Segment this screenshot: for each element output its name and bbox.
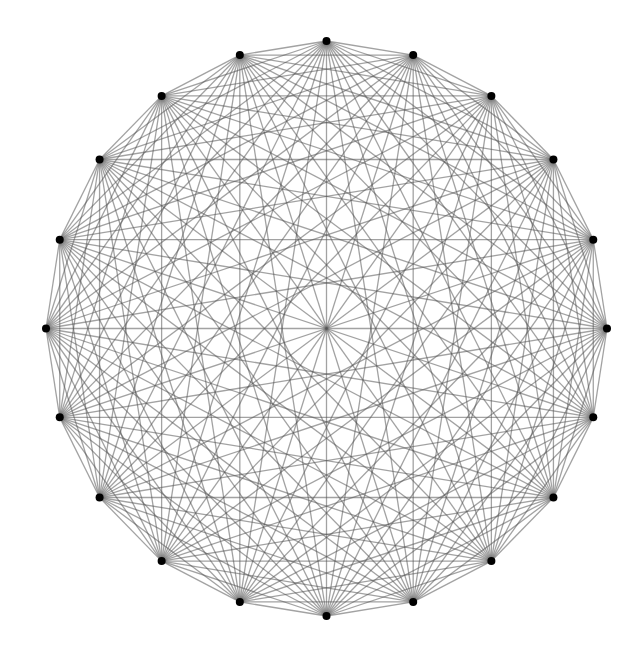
graph-vertex-9 — [409, 598, 417, 606]
graph-edge — [60, 55, 240, 240]
graph-edge — [60, 240, 413, 602]
graph-vertex-11 — [236, 598, 244, 606]
graph-vertex-6 — [589, 413, 597, 421]
graph-vertex-1 — [409, 51, 417, 59]
graph-vertex-3 — [549, 156, 557, 164]
graph-edge — [100, 497, 162, 561]
graph-edge — [162, 96, 554, 498]
graph-vertex-8 — [487, 557, 495, 565]
graph-vertex-16 — [56, 236, 64, 244]
graph-vertex-7 — [549, 493, 557, 501]
graph-vertex-4 — [589, 236, 597, 244]
graph-edge — [60, 96, 162, 417]
graph-vertex-2 — [487, 92, 495, 100]
graph-vertex-15 — [42, 325, 50, 333]
graph-edge — [162, 96, 327, 616]
graph-edge — [100, 55, 240, 159]
graph-vertex-18 — [158, 92, 166, 100]
graph-vertex-14 — [56, 413, 64, 421]
graph-edge — [491, 497, 553, 561]
graph-edge — [46, 41, 327, 329]
graph-edge — [100, 497, 240, 601]
graph-edges — [46, 41, 607, 616]
graph-vertex-12 — [158, 557, 166, 565]
graph-edge — [60, 417, 240, 602]
graph-edge — [327, 329, 608, 617]
graph-edge — [240, 55, 554, 159]
graph-edge — [100, 160, 594, 418]
graph-edge — [240, 55, 492, 561]
graph-edge — [240, 55, 327, 616]
graph-edge — [60, 96, 162, 240]
graph-vertex-10 — [323, 612, 331, 620]
graph-edge — [46, 329, 327, 617]
graph-vertex-19 — [236, 51, 244, 59]
graph-edge — [100, 96, 162, 160]
graph-edge — [240, 55, 593, 417]
graph-edge — [46, 55, 240, 328]
graph-vertex-13 — [96, 493, 104, 501]
graph-edge — [413, 55, 593, 240]
graph-edge — [60, 417, 162, 561]
graph-vertex-0 — [323, 37, 331, 45]
complete-graph-diagram — [0, 0, 642, 655]
graph-vertex-5 — [603, 325, 611, 333]
graph-edge — [491, 96, 553, 160]
graph-edge — [327, 41, 608, 329]
graph-edge — [413, 417, 593, 602]
graph-vertex-17 — [96, 156, 104, 164]
graph-edge — [162, 96, 414, 602]
